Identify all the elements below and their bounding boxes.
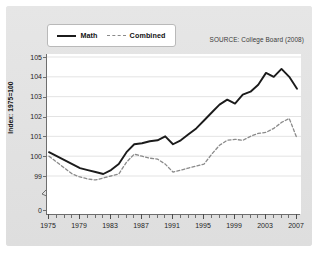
y-tick-label: 101 <box>30 133 42 140</box>
x-tick-label: 1991 <box>164 222 180 229</box>
x-tick-mark-minor <box>180 214 181 218</box>
y-tick-label: 105 <box>30 54 42 61</box>
x-tick-label: 2007 <box>288 222 304 229</box>
x-tick-mark-minor <box>126 214 127 218</box>
x-tick-mark-major <box>296 214 297 219</box>
x-tick-mark-major <box>141 214 142 219</box>
x-tick-mark-minor <box>87 214 88 218</box>
x-tick-mark-minor <box>188 214 189 218</box>
x-tick-label: 1995 <box>195 222 211 229</box>
x-tick-mark-major <box>203 214 204 219</box>
y-tick-label: 104 <box>30 73 42 80</box>
x-tick-mark-major <box>172 214 173 219</box>
legend-entry-combined: Combined <box>107 31 166 40</box>
x-tick-mark-minor <box>102 214 103 218</box>
x-tick-mark-minor <box>64 214 65 218</box>
x-tick-mark-minor <box>257 214 258 218</box>
x-tick-mark-minor <box>133 214 134 218</box>
series-line-combined <box>49 118 297 179</box>
legend-label-combined: Combined <box>130 31 166 40</box>
x-tick-mark-minor <box>95 214 96 218</box>
x-tick-mark-major <box>48 214 49 219</box>
x-tick-mark-major <box>79 214 80 219</box>
x-tick-mark-minor <box>273 214 274 218</box>
x-tick-mark-major <box>110 214 111 219</box>
x-axis-line <box>46 214 300 215</box>
x-tick-mark-minor <box>281 214 282 218</box>
legend-entry-math: Math <box>57 31 97 40</box>
x-tick-mark-minor <box>226 214 227 218</box>
x-tick-label: 1979 <box>71 222 87 229</box>
x-tick-mark-major <box>265 214 266 219</box>
x-tick-mark-minor <box>288 214 289 218</box>
y-tick-label: 102 <box>30 113 42 120</box>
x-tick-mark-minor <box>211 214 212 218</box>
x-tick-mark-minor <box>164 214 165 218</box>
x-tick-label: 1975 <box>40 222 56 229</box>
legend-line-solid-icon <box>57 35 76 37</box>
chart-legend: Math Combined <box>47 24 176 47</box>
x-tick-label: 1987 <box>133 222 149 229</box>
x-tick-mark-major <box>234 214 235 219</box>
plot-lines <box>47 54 301 214</box>
x-tick-mark-minor <box>219 214 220 218</box>
x-tick-mark-minor <box>195 214 196 218</box>
x-tick-mark-minor <box>242 214 243 218</box>
series-line-math <box>49 69 297 174</box>
legend-label-math: Math <box>80 31 97 40</box>
legend-line-dashed-icon <box>107 35 126 36</box>
chart-figure: Math Combined SOURCE: College Board (200… <box>0 0 322 256</box>
plot-area <box>46 54 301 214</box>
x-tick-mark-minor <box>157 214 158 218</box>
y-tick-label: 100 <box>30 153 42 160</box>
x-tick-label: 1983 <box>102 222 118 229</box>
x-tick-mark-minor <box>250 214 251 218</box>
x-tick-mark-minor <box>149 214 150 218</box>
x-tick-label: 1999 <box>226 222 242 229</box>
x-tick-mark-minor <box>118 214 119 218</box>
x-tick-mark-minor <box>71 214 72 218</box>
y-tick-label: 103 <box>30 93 42 100</box>
y-axis-title: Index: 1975=100 <box>7 65 14 151</box>
x-tick-label: 2003 <box>257 222 273 229</box>
y-tick-label: 0 <box>38 207 42 214</box>
source-note: SOURCE: College Board (2008) <box>210 36 304 43</box>
y-tick-label: 99 <box>34 173 42 180</box>
x-tick-mark-minor <box>56 214 57 218</box>
y-axis-tick-labels: 105104103102101100990 <box>16 0 42 256</box>
